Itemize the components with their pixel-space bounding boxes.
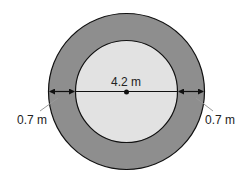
inner-diameter-label: 4.2 m <box>111 75 141 89</box>
left-ring-width-label: 0.7 m <box>17 113 47 127</box>
center-point <box>124 90 129 95</box>
annulus-diagram: 4.2 m 0.7 m 0.7 m <box>0 0 248 181</box>
right-ring-width-label: 0.7 m <box>205 113 235 127</box>
